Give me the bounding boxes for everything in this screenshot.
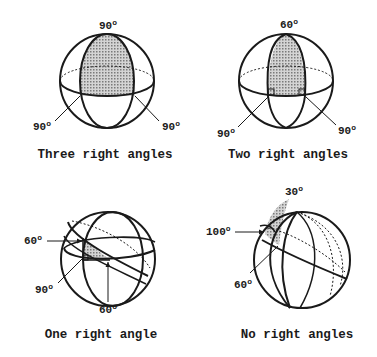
panel-three-right-angles: 90o 90o 90o Three right angles [33,18,180,162]
spherical-triangles-figure: 90o 90o 90o Three right angles 60o 90o 9… [0,0,377,357]
angle-label-top: 60o [280,17,298,31]
panel-one-right-angle: 60o 90o 60o One right angle [24,212,157,342]
shaded-triangle [80,34,135,96]
leader-line [135,96,159,121]
caption: One right angle [45,328,158,342]
angle-label-upper-left: 60o [24,233,42,247]
angle-label-bottom: 60o [99,302,117,316]
angle-label-top: 90o [99,18,117,32]
meridian-3 [297,212,315,308]
arrowhead [77,239,82,244]
angle-label-left: 90o [33,119,51,133]
caption: No right angles [241,328,354,342]
angle-label-right: 90o [162,119,180,133]
panel-two-right-angles: 60o 90o 90o Two right angles [217,17,356,162]
angle-label-right: 90o [338,123,356,137]
caption: Three right angles [37,148,172,162]
angle-label-top: 30o [285,184,303,198]
shaded-triangle [268,34,305,96]
caption: Two right angles [228,148,348,162]
meridian-2 [282,212,297,308]
tilted-circle-front [262,240,347,279]
angle-label-lower-left: 60o [234,277,252,291]
angle-label-left: 100o [206,224,231,238]
panel-no-right-angles: 30o 100o 60o No right angles [206,184,353,342]
angle-label-lower-left: 90o [35,282,53,296]
angle-label-left: 90o [217,126,235,140]
